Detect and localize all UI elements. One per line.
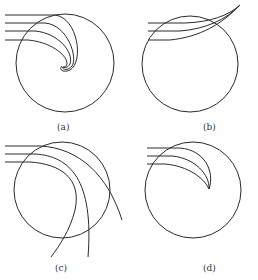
panel-a: (a) xyxy=(5,14,114,132)
panel-d-ray-2 xyxy=(147,156,209,189)
panel-c-ray-1 xyxy=(5,146,122,220)
panel-c-ray-2 xyxy=(5,154,89,257)
panel-a-ray-4 xyxy=(5,40,67,67)
panel-a-label: (a) xyxy=(57,122,69,132)
panel-d-label: (d) xyxy=(203,263,216,273)
panel-d-ray-1 xyxy=(147,148,211,189)
panel-c-label: (c) xyxy=(55,263,67,273)
panel-d: (d) xyxy=(145,142,241,273)
panel-c: (c) xyxy=(5,142,122,273)
panel-a-ray-2 xyxy=(5,23,74,70)
panel-a-ray-3 xyxy=(5,31,71,68)
panel-c-circle xyxy=(14,142,110,238)
figure-canvas: (a) (b) (c) (d) xyxy=(0,0,258,280)
panel-b-ray-1 xyxy=(148,5,240,23)
panel-a-circle xyxy=(16,14,114,112)
panel-b: (b) xyxy=(142,5,240,132)
panel-b-label: (b) xyxy=(203,122,216,132)
panel-b-circle xyxy=(142,16,238,112)
